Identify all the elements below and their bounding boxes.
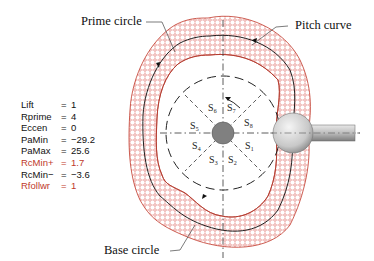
param-rfollwr: Rfollwr=1 (21, 180, 95, 192)
svg-text:S₇: S₇ (227, 102, 236, 113)
segment-label-s1: S₁ (245, 140, 254, 151)
segment-label-s7: S₇ (227, 102, 236, 113)
param-lift: Lift=1 (21, 99, 95, 111)
pitch-curve-label: Pitch curve (295, 18, 352, 33)
svg-text:S₂: S₂ (228, 154, 237, 165)
svg-text:S₈: S₈ (244, 117, 254, 128)
svg-text:S₄: S₄ (192, 140, 202, 151)
segment-label-s6: S₆ (208, 102, 218, 113)
param-pamin: PaMin=−29.2 (21, 134, 95, 146)
segment-label-s4: S₄ (192, 140, 202, 151)
svg-text:S₅: S₅ (190, 120, 199, 131)
svg-text:S₁: S₁ (245, 140, 254, 151)
svg-text:S₃: S₃ (209, 154, 218, 165)
segment-label-s5: S₅ (190, 120, 199, 131)
segment-label-s3: S₃ (209, 154, 218, 165)
roller-follower (270, 113, 360, 153)
svg-text:S₆: S₆ (208, 102, 218, 113)
prime-circle-label: Prime circle (81, 14, 142, 29)
param-rprime: Rprime=4 (21, 111, 95, 123)
follower-roller (273, 113, 313, 153)
segment-label-s8: S₈ (244, 117, 254, 128)
arrow-icon (202, 194, 207, 199)
param-rcmin-plus: RcMin+=1.7 (21, 157, 95, 169)
param-pamax: PaMax=25.6 (21, 145, 95, 157)
segment-label-s2: S₂ (228, 154, 237, 165)
param-rcmin-minus: RcMin−=−3.6 (21, 169, 95, 181)
cam-hub (212, 122, 234, 144)
base-circle-label: Base circle (104, 243, 159, 258)
parameter-list: Lift=1 Rprime=4 Eccen=0 PaMin=−29.2 PaMa… (21, 99, 95, 192)
param-eccen: Eccen=0 (21, 122, 95, 134)
